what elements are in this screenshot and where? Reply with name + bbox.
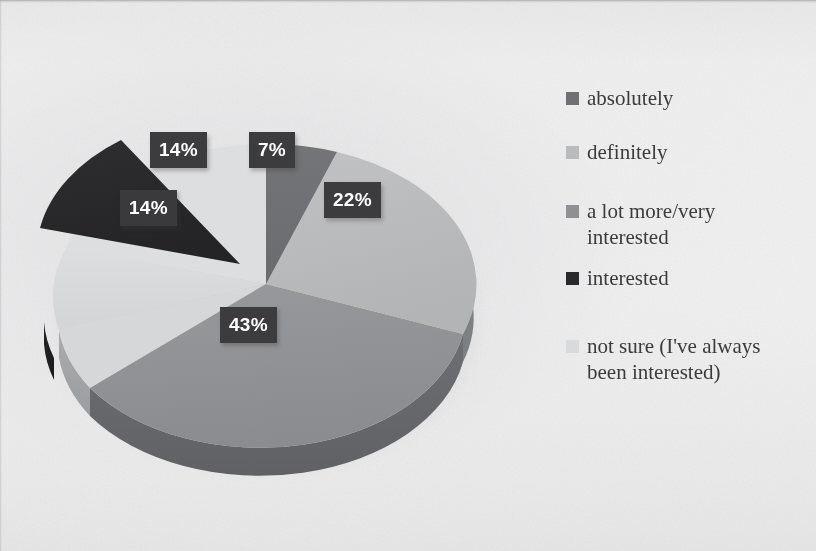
legend-item-label: a lot more/very interested xyxy=(587,199,782,250)
data-label-not-sure: 14% xyxy=(120,190,177,226)
legend-item-definitely[interactable]: definitely xyxy=(566,140,806,166)
legend-swatch-icon xyxy=(566,205,579,218)
legend-item-label: interested xyxy=(587,266,669,292)
legend-item-not-sure[interactable]: not sure (I've always been interested) xyxy=(566,334,806,385)
legend-item-absolutely[interactable]: absolutely xyxy=(566,86,806,112)
legend-item-label: not sure (I've always been interested) xyxy=(587,334,782,385)
data-label-a-lot-more: 43% xyxy=(220,307,277,343)
chart-legend: absolutely definitely a lot more/very in… xyxy=(566,86,806,385)
chart-page: 14% 7% 22% 14% 43% absolutely definitely… xyxy=(0,0,816,551)
pie-chart: 14% 7% 22% 14% 43% xyxy=(0,0,560,551)
data-label-absolutely: 7% xyxy=(249,132,295,168)
legend-item-label: definitely xyxy=(587,140,667,166)
legend-item-a-lot-more-very-interested[interactable]: a lot more/very interested xyxy=(566,199,806,250)
legend-swatch-icon xyxy=(566,272,579,285)
legend-swatch-icon xyxy=(566,340,579,353)
data-label-interested: 14% xyxy=(150,132,207,168)
pie-plot-area: 14% 7% 22% 14% 43% xyxy=(38,72,490,472)
legend-item-interested[interactable]: interested xyxy=(566,266,806,292)
data-label-definitely: 22% xyxy=(324,182,381,218)
legend-swatch-icon xyxy=(566,146,579,159)
legend-swatch-icon xyxy=(566,92,579,105)
legend-item-label: absolutely xyxy=(587,86,673,112)
